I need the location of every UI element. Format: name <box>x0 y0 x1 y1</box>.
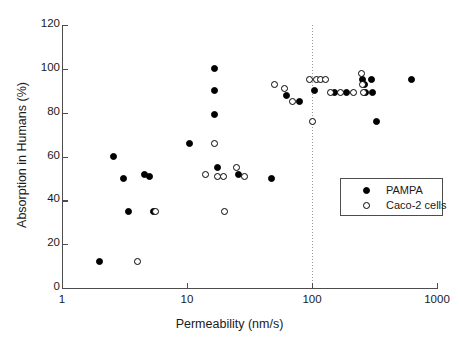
x-tick-10 <box>187 283 188 288</box>
data-point-pampa <box>368 76 375 83</box>
data-point-pampa <box>146 173 153 180</box>
y-tick-label-0: 0 <box>26 280 60 292</box>
x-tick-100 <box>312 283 313 288</box>
y-tick-label-120: 120 <box>26 17 60 29</box>
scatter-chart-figure: 1101001000 020406080100120 PAMPA Caco-2 … <box>0 0 459 342</box>
reference-line-100 <box>312 25 313 288</box>
data-point-caco2 <box>211 140 218 147</box>
data-point-pampa <box>311 87 318 94</box>
data-point-caco2 <box>220 173 227 180</box>
data-point-caco2 <box>289 98 296 105</box>
data-point-caco2 <box>322 76 329 83</box>
data-point-caco2 <box>241 173 248 180</box>
data-point-pampa <box>96 258 103 265</box>
y-tick-60 <box>63 157 68 158</box>
data-point-pampa <box>373 118 380 125</box>
y-tick-120 <box>63 25 68 26</box>
data-point-pampa <box>125 208 132 215</box>
data-point-caco2 <box>350 89 357 96</box>
data-point-caco2 <box>281 85 288 92</box>
data-point-caco2 <box>233 164 240 171</box>
filled-circle-icon <box>363 187 370 194</box>
data-point-caco2 <box>152 208 159 215</box>
data-point-caco2 <box>337 89 344 96</box>
chart-legend: PAMPA Caco-2 cells <box>340 178 443 216</box>
data-point-caco2 <box>309 118 316 125</box>
data-point-pampa <box>110 153 117 160</box>
data-point-pampa <box>408 76 415 83</box>
y-tick-100 <box>63 69 68 70</box>
y-axis-label: Absorption in Humans (%) <box>15 45 29 265</box>
data-point-caco2 <box>134 258 141 265</box>
x-tick-label-1: 1 <box>32 293 92 305</box>
data-point-caco2 <box>271 81 278 88</box>
x-tick-label-100: 100 <box>282 293 342 305</box>
data-point-caco2 <box>221 208 228 215</box>
y-tick-label-60: 60 <box>26 149 60 161</box>
data-point-pampa <box>186 140 193 147</box>
x-axis-label: Permeability (nm/s) <box>0 317 459 331</box>
y-tick-40 <box>63 200 68 201</box>
x-axis-line <box>62 288 438 289</box>
data-point-pampa <box>211 111 218 118</box>
data-point-pampa <box>211 87 218 94</box>
legend-label-pampa: PAMPA <box>386 183 423 198</box>
x-tick-label-10: 10 <box>157 293 217 305</box>
y-tick-label-80: 80 <box>26 105 60 117</box>
legend-entry-pampa: PAMPA <box>341 183 444 198</box>
data-point-pampa <box>120 175 127 182</box>
data-point-pampa <box>268 175 275 182</box>
y-tick-label-100: 100 <box>26 61 60 73</box>
open-circle-icon <box>363 202 370 209</box>
y-tick-0 <box>63 288 68 289</box>
data-point-caco2 <box>358 70 365 77</box>
data-point-pampa <box>296 98 303 105</box>
data-point-pampa <box>369 89 376 96</box>
x-tick-label-1000: 1000 <box>407 293 459 305</box>
y-tick-label-20: 20 <box>26 236 60 248</box>
data-point-pampa <box>283 92 290 99</box>
y-tick-20 <box>63 244 68 245</box>
legend-entry-caco2: Caco-2 cells <box>341 198 444 213</box>
y-tick-label-40: 40 <box>26 192 60 204</box>
legend-label-caco2: Caco-2 cells <box>386 198 447 213</box>
data-point-caco2 <box>202 171 209 178</box>
y-tick-80 <box>63 113 68 114</box>
x-tick-1000 <box>437 283 438 288</box>
data-point-pampa <box>211 65 218 72</box>
data-point-caco2 <box>359 81 366 88</box>
data-point-pampa <box>214 164 221 171</box>
